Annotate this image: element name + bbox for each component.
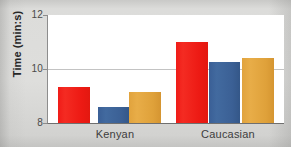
bar-caucasian-series-3 [242,58,274,123]
y-tick-label-10: 10 [27,64,43,74]
plot-inner [48,15,284,123]
bar-caucasian-series-1 [176,42,208,123]
bar-kenyan-series-1 [58,87,90,123]
y-axis-ticks: 12 10 8 [27,0,43,147]
plot-area [47,15,284,124]
bar-kenyan-series-3 [129,92,161,123]
y-axis-title: Time (min:s) [11,0,23,89]
y-tick-label-8: 8 [27,118,43,128]
chart-screenshot: Time (min:s) 12 10 8 Kenyan Caucasian [0,0,291,147]
bar-caucasian-series-2 [209,62,240,123]
x-category-label-kenyan: Kenyan [75,128,155,140]
y-tick-label-12: 12 [27,10,43,20]
x-category-label-caucasian: Caucasian [183,128,273,140]
bar-kenyan-series-2 [98,107,129,123]
